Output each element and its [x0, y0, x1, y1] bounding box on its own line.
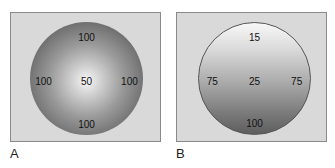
panel-a-top-value: 100 — [78, 31, 95, 42]
panel-a-left-value: 100 — [35, 75, 52, 86]
panel-a-label: A — [10, 146, 19, 161]
panel-b-bottom-value: 100 — [246, 117, 263, 128]
panel-a-center-value: 50 — [81, 75, 92, 86]
panel-b-label: B — [176, 146, 185, 161]
panel-b-frame: 15 75 25 75 100 — [176, 12, 327, 142]
panel-a-frame: 100 100 50 100 100 — [10, 12, 161, 142]
panel-b-center-value: 25 — [249, 75, 260, 86]
panel-b-gradient-circle: 15 75 25 75 100 — [198, 22, 311, 135]
panel-a-radial-circle: 100 100 50 100 100 — [30, 22, 143, 135]
panel-b-left-value: 75 — [207, 75, 218, 86]
panel-a-bottom-value: 100 — [78, 118, 95, 129]
panel-a-right-value: 100 — [121, 75, 138, 86]
panel-b-top-value: 15 — [249, 32, 260, 43]
panel-b-right-value: 75 — [291, 75, 302, 86]
